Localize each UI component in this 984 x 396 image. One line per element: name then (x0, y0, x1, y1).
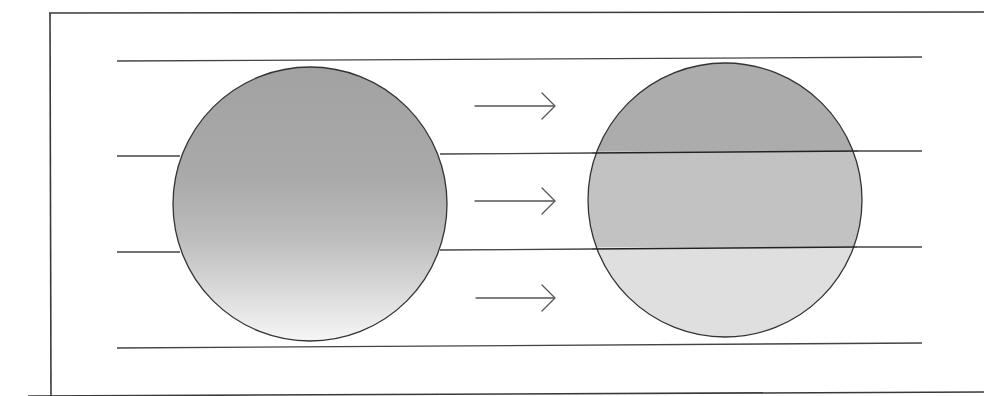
guide-line-1 (117, 57, 922, 61)
frame-left-border (50, 13, 51, 396)
frame-bottom-border (28, 392, 984, 396)
guide-line-4 (117, 343, 922, 348)
arrow-right-icon (475, 93, 555, 119)
frame-top-border (49, 12, 984, 13)
band-top (580, 55, 880, 152)
guide-line-3-middle (440, 249, 592, 250)
gradient-sphere-fill (173, 67, 447, 341)
banded-sphere (580, 55, 880, 347)
arrow-right-icon (475, 188, 555, 214)
diagram-canvas (0, 0, 984, 396)
transform-arrows (475, 93, 555, 311)
band-bottom (580, 247, 880, 347)
gradient-sphere (173, 67, 447, 341)
band-middle (580, 151, 880, 248)
guide-line-2-middle (440, 153, 592, 154)
arrow-right-icon (476, 285, 555, 311)
